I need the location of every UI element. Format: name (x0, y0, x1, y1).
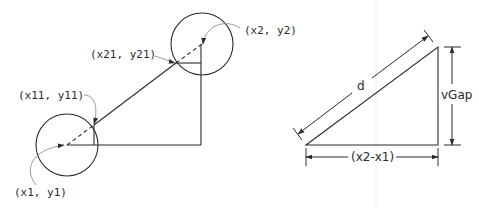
d-tick-start (293, 128, 302, 140)
leader-p1-arrow-icon (30, 145, 64, 185)
dashed-segment-2 (176, 44, 202, 63)
d-tick-end (424, 30, 433, 42)
label-x21-y21: (x21, y21) (90, 48, 156, 61)
d-dimension-line-lower (298, 93, 352, 134)
label-x11-y11: (x11, y11) (18, 89, 84, 102)
diagram-canvas: (x1, y1) (x2, y2) (x11, y11) (x21, y21) … (0, 0, 479, 208)
leader-p2-arrow-icon (203, 24, 240, 44)
dashed-segment-1 (67, 125, 94, 145)
label-d: d (357, 79, 365, 93)
d-dimension-line-upper (372, 36, 428, 78)
diagram-svg: (x1, y1) (x2, y2) (x11, y11) (x21, y21) … (0, 0, 479, 208)
leader-p21-arrow-icon (155, 56, 175, 63)
right-panel: d vGap (x2-x1) (293, 30, 472, 166)
label-x2-minus-x1: (x2-x1) (351, 150, 394, 164)
right-triangle (306, 47, 438, 145)
label-x1-y1: (x1, y1) (14, 186, 67, 199)
left-panel: (x1, y1) (x2, y2) (x11, y11) (x21, y21) (14, 13, 297, 199)
label-vgap: vGap (441, 88, 472, 102)
circle-node-2 (171, 13, 233, 75)
label-x2-y2: (x2, y2) (244, 24, 297, 37)
connector-line (94, 63, 176, 125)
